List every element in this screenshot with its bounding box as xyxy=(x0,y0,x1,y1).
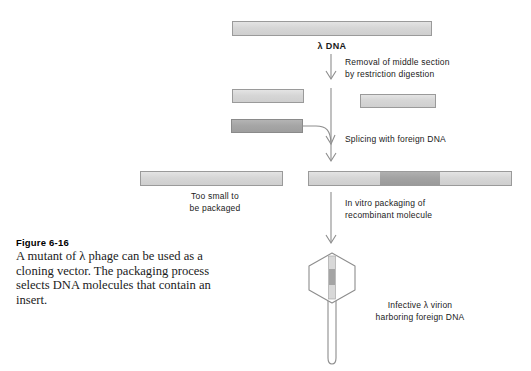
virion-label: Infective λ virion harboring foreign DNA xyxy=(340,300,500,323)
foreign-dna-bar xyxy=(231,119,303,133)
figure-caption-text: A mutant of λ phage can be used as a clo… xyxy=(16,249,234,307)
step-restriction-label: Removal of middle section by restriction… xyxy=(345,57,520,80)
arrow-splicing xyxy=(320,88,346,168)
left-arm-bar xyxy=(232,89,304,103)
figure-number: Figure 6-16 xyxy=(16,237,234,248)
too-small-label: Too small to be packaged xyxy=(160,191,270,214)
arrow-restriction-digestion xyxy=(320,54,346,86)
arrow-in-vitro-packaging xyxy=(320,192,346,250)
figure-6-16: λ DNA Removal of middle section by restr… xyxy=(0,0,531,371)
recombinant-dna-bar xyxy=(308,171,512,186)
lambda-dna-label: λ DNA xyxy=(262,41,402,53)
figure-caption-block: Figure 6-16 A mutant of λ phage can be u… xyxy=(16,237,234,307)
foreign-insert-segment xyxy=(380,172,440,185)
right-arm-bar xyxy=(360,94,436,108)
religated-arms-bar xyxy=(140,171,283,186)
step-packaging-label: In vitro packaging of recombinant molecu… xyxy=(345,198,520,221)
step-splicing-label: Splicing with foreign DNA xyxy=(345,134,525,146)
lambda-dna-bar xyxy=(232,21,432,36)
